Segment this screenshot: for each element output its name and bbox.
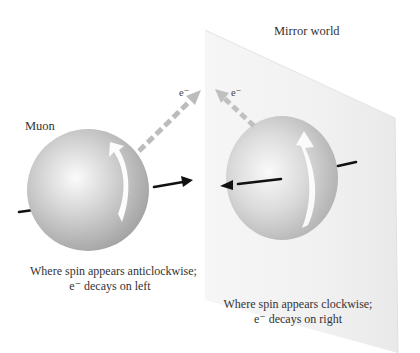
- mirror-world-label: Mirror world: [274, 24, 340, 39]
- muon-sphere-left: [19, 129, 193, 251]
- right-caption-line2: e⁻ decays on right: [223, 312, 373, 327]
- electron-arrow-left: [139, 90, 201, 151]
- right-caption: Where spin appears clockwise; e⁻ decays …: [223, 297, 373, 327]
- parity-mirror-diagram: Muon Mirror world e⁻ e⁻ Where spin appea…: [0, 0, 420, 353]
- electron-label-left: e⁻: [179, 86, 189, 98]
- right-caption-line1: Where spin appears clockwise;: [223, 297, 373, 312]
- muon-label: Muon: [25, 119, 55, 134]
- left-caption-line2: e⁻ decays on left: [30, 279, 190, 294]
- left-caption-line1: Where spin appears anticlockwise;: [30, 264, 190, 279]
- left-caption: Where spin appears anticlockwise; e⁻ dec…: [30, 264, 190, 294]
- electron-label-mirror: e⁻: [231, 86, 241, 98]
